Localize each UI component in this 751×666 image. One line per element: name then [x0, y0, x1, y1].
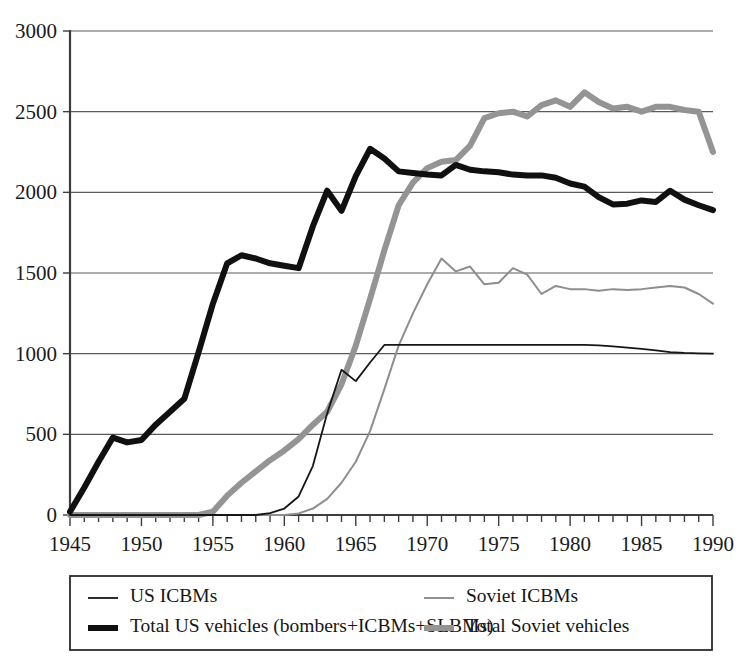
legend-item[interactable]: US ICBMs — [88, 585, 217, 606]
y-tick-label: 1500 — [15, 261, 57, 285]
line-chart: 050010001500200025003000 194519501955196… — [0, 0, 751, 666]
series-line-soviet-icbms — [70, 258, 713, 515]
series-line-total-soviet-vehicles — [70, 92, 713, 515]
x-tick-label: 1965 — [335, 532, 377, 556]
y-tick-label: 500 — [26, 422, 58, 446]
x-tick-label: 1945 — [49, 532, 91, 556]
y-axis-tick-labels: 050010001500200025003000 — [15, 19, 70, 527]
x-tick-label: 1985 — [621, 532, 663, 556]
data-series — [70, 92, 713, 515]
legend-label: Total Soviet vehicles — [466, 615, 629, 636]
x-axis-tick-labels: 1945195019551960196519701975198019851990 — [49, 532, 734, 556]
y-tick-label: 2500 — [15, 100, 57, 124]
y-tick-label: 2000 — [15, 180, 57, 204]
x-tick-label: 1970 — [406, 532, 448, 556]
legend-label: US ICBMs — [130, 585, 217, 606]
y-tick-label: 1000 — [15, 342, 57, 366]
chart-figure: 050010001500200025003000 194519501955196… — [0, 0, 751, 666]
x-tick-label: 1975 — [478, 532, 520, 556]
x-tick-label: 1960 — [263, 532, 305, 556]
legend-item[interactable]: Soviet ICBMs — [424, 585, 578, 606]
legend-label: Soviet ICBMs — [466, 585, 578, 606]
x-tick-label: 1980 — [549, 532, 591, 556]
x-tick-label: 1955 — [192, 532, 234, 556]
series-line-total-us-vehicles-bombers-icbms-slbms — [70, 149, 713, 512]
x-tick-label: 1990 — [692, 532, 734, 556]
y-tick-label: 0 — [47, 503, 58, 527]
chart-legend: US ICBMsSoviet ICBMsTotal US vehicles (b… — [70, 576, 712, 650]
x-tick-label: 1950 — [120, 532, 162, 556]
y-tick-label: 3000 — [15, 19, 57, 43]
